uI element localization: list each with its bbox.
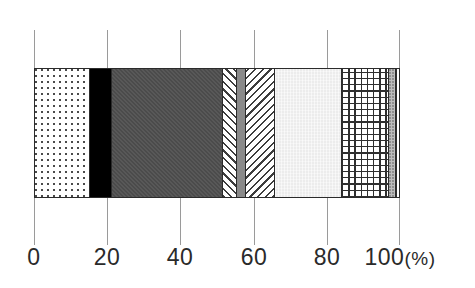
bar-segment-8 [341, 69, 388, 197]
x-tick-label-60: 60 [241, 246, 268, 269]
stacked-bar [34, 68, 400, 198]
bar-segment-4 [222, 69, 236, 197]
x-tick-label-0: 0 [27, 246, 40, 269]
bar-segment-1 [35, 69, 89, 197]
axis-unit-label: (%) [404, 248, 435, 269]
bar-segment-2 [89, 69, 111, 197]
x-tick-label-100-value: 100 [365, 244, 405, 270]
x-tick-label-20: 20 [94, 246, 121, 269]
bar-segment-5 [236, 69, 245, 197]
bar-segment-9 [388, 69, 395, 197]
x-tick-label-100: 100(%) [365, 246, 436, 269]
x-tick-label-80: 80 [314, 246, 341, 269]
chart-root: 0 20 40 60 80 100(%) [0, 0, 475, 288]
bar-segment-6 [245, 69, 274, 197]
bar-segment-3 [111, 69, 222, 197]
bar-segment-10 [395, 69, 399, 197]
bar-segment-7 [274, 69, 342, 197]
x-tick-label-40: 40 [167, 246, 194, 269]
